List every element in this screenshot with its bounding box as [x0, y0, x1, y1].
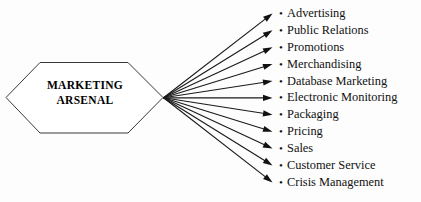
bullet-icon: •	[279, 106, 283, 123]
center-label-line-2: ARSENAL	[14, 93, 156, 108]
branch-list-item: •Promotions	[279, 39, 421, 56]
branch-label: Electronic Monitoring	[287, 90, 397, 104]
branch-list-item: •Pricing	[279, 123, 421, 140]
arrow-head-icon	[263, 126, 273, 132]
bullet-icon: •	[279, 89, 283, 106]
bullet-icon: •	[279, 5, 283, 22]
marketing-arsenal-diagram: MARKETING ARSENAL •Advertising•Public Re…	[0, 0, 421, 202]
branch-list-item: •Merchandising	[279, 56, 421, 73]
branch-label: Sales	[287, 141, 313, 155]
branch-list-item: •Public Relations	[279, 22, 421, 39]
branch-list-item: •Sales	[279, 140, 421, 157]
bullet-icon: •	[279, 174, 283, 191]
arrow-shaft	[164, 98, 268, 179]
arrow-shaft	[164, 98, 267, 130]
branch-label: Promotions	[287, 40, 344, 54]
branch-list-item: •Electronic Monitoring	[279, 89, 421, 106]
arrow-shaft	[164, 17, 268, 97]
arrow-head-icon	[263, 110, 273, 116]
arrow-shaft	[164, 50, 267, 98]
branch-label-list: •Advertising•Public Relations•Promotions…	[279, 5, 421, 191]
branch-list-item: •Packaging	[279, 106, 421, 123]
branch-label: Pricing	[287, 124, 323, 138]
bullet-icon: •	[279, 39, 283, 56]
arrow-shaft	[164, 66, 267, 98]
branch-label: Customer Service	[287, 158, 375, 172]
branch-label: Database Marketing	[287, 74, 387, 88]
center-label: MARKETING ARSENAL	[14, 78, 156, 107]
arrow-head-icon	[263, 174, 272, 182]
bullet-icon: •	[279, 73, 283, 90]
arrow-head-icon	[263, 79, 273, 85]
arrow-head-icon	[263, 95, 273, 101]
arrow-head-icon	[263, 142, 273, 149]
arrow-head-icon	[263, 30, 273, 38]
arrow-shaft	[164, 98, 267, 114]
bullet-icon: •	[279, 157, 283, 174]
branch-list-item: •Advertising	[279, 5, 421, 22]
branch-label: Crisis Management	[287, 175, 384, 189]
arrow-shaft	[164, 98, 267, 146]
arrow-head-icon	[263, 158, 273, 166]
arrow-rays-group	[164, 13, 273, 182]
arrow-head-icon	[263, 13, 272, 21]
center-label-line-1: MARKETING	[14, 78, 156, 93]
branch-label: Advertising	[287, 6, 346, 20]
bullet-icon: •	[279, 123, 283, 140]
branch-label: Packaging	[287, 107, 339, 121]
branch-label: Public Relations	[287, 23, 369, 37]
arrow-shaft	[164, 98, 267, 162]
branch-label: Merchandising	[287, 57, 361, 71]
arrow-shaft	[164, 82, 267, 98]
bullet-icon: •	[279, 56, 283, 73]
arrow-head-icon	[263, 47, 273, 54]
arrow-head-icon	[263, 64, 273, 70]
branch-list-item: •Crisis Management	[279, 174, 421, 191]
bullet-icon: •	[279, 22, 283, 39]
bullet-icon: •	[279, 140, 283, 157]
arrow-shaft	[164, 34, 267, 98]
branch-list-item: •Customer Service	[279, 157, 421, 174]
branch-list-item: •Database Marketing	[279, 73, 421, 90]
